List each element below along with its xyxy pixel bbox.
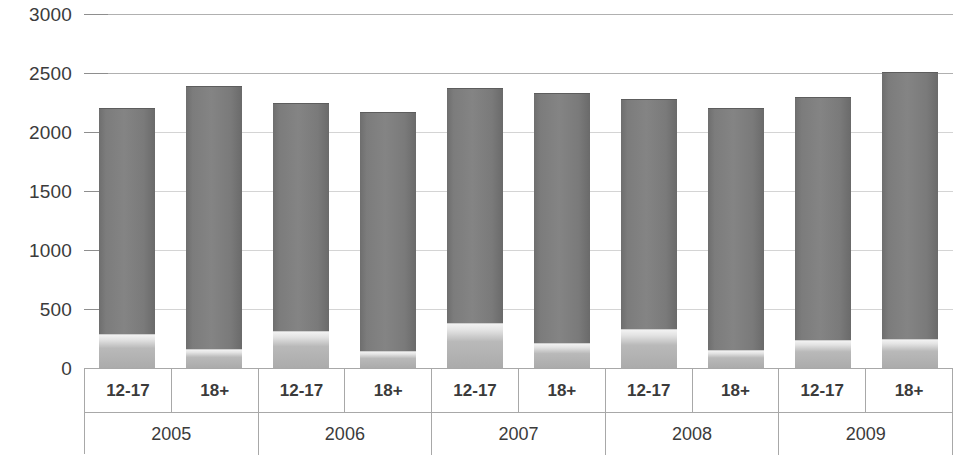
bar-segment-upper (882, 72, 938, 339)
bar (99, 108, 155, 368)
bar (360, 112, 416, 368)
year-row: 20052006200720082009 (85, 412, 953, 455)
y-axis: 300025002000150010005000 (0, 0, 72, 465)
age-group-label: 18+ (866, 369, 953, 412)
bars-layer (84, 14, 953, 368)
bar-segment-upper (360, 112, 416, 351)
age-group-label: 12-17 (606, 369, 693, 412)
bar-segment-upper (186, 86, 242, 349)
bar-segment-lower (708, 350, 764, 368)
bar-segment-upper (795, 97, 851, 339)
bar-segment-lower (795, 340, 851, 368)
bar (534, 93, 590, 368)
y-axis-tick-label: 0 (0, 359, 72, 378)
y-axis-tick-label: 2000 (0, 123, 72, 142)
bar-segment-lower (447, 323, 503, 368)
year-label: 2009 (779, 413, 953, 455)
bar-segment-upper (99, 108, 155, 333)
y-axis-tick-label: 500 (0, 300, 72, 319)
age-group-label: 18+ (519, 369, 606, 412)
bar (447, 88, 503, 368)
bar (186, 86, 242, 368)
y-axis-tick-label: 1000 (0, 241, 72, 260)
category-axis: 12-1718+12-1718+12-1718+12-1718+12-1718+… (84, 368, 953, 454)
bar (273, 103, 329, 368)
bar-segment-lower (99, 334, 155, 368)
bar-segment-lower (621, 329, 677, 368)
y-axis-tick-label: 3000 (0, 5, 72, 24)
bar (795, 97, 851, 368)
bar-segment-upper (447, 88, 503, 323)
y-axis-tick-label: 1500 (0, 182, 72, 201)
year-label: 2005 (85, 413, 259, 455)
bar-segment-upper (273, 103, 329, 332)
bar-segment-lower (273, 331, 329, 368)
bar (708, 108, 764, 368)
bar (621, 99, 677, 368)
age-group-label: 18+ (693, 369, 780, 412)
age-group-label: 12-17 (85, 369, 172, 412)
y-axis-tick-label: 2500 (0, 64, 72, 83)
age-group-label: 12-17 (432, 369, 519, 412)
age-group-label: 12-17 (779, 369, 866, 412)
plot-area (84, 14, 953, 368)
bar-segment-lower (534, 343, 590, 368)
bar-segment-upper (621, 99, 677, 329)
age-group-row: 12-1718+12-1718+12-1718+12-1718+12-1718+ (85, 369, 953, 412)
bar-segment-upper (534, 93, 590, 343)
age-group-label: 18+ (172, 369, 259, 412)
bar-segment-lower (186, 349, 242, 368)
age-group-label: 18+ (345, 369, 432, 412)
bar-segment-lower (360, 351, 416, 368)
year-label: 2006 (259, 413, 433, 455)
age-group-label: 12-17 (259, 369, 346, 412)
bar-segment-lower (882, 339, 938, 368)
bar-chart: 300025002000150010005000 12-1718+12-1718… (0, 0, 967, 465)
year-label: 2008 (606, 413, 780, 455)
bar-segment-upper (708, 108, 764, 350)
bar (882, 72, 938, 368)
year-label: 2007 (432, 413, 606, 455)
